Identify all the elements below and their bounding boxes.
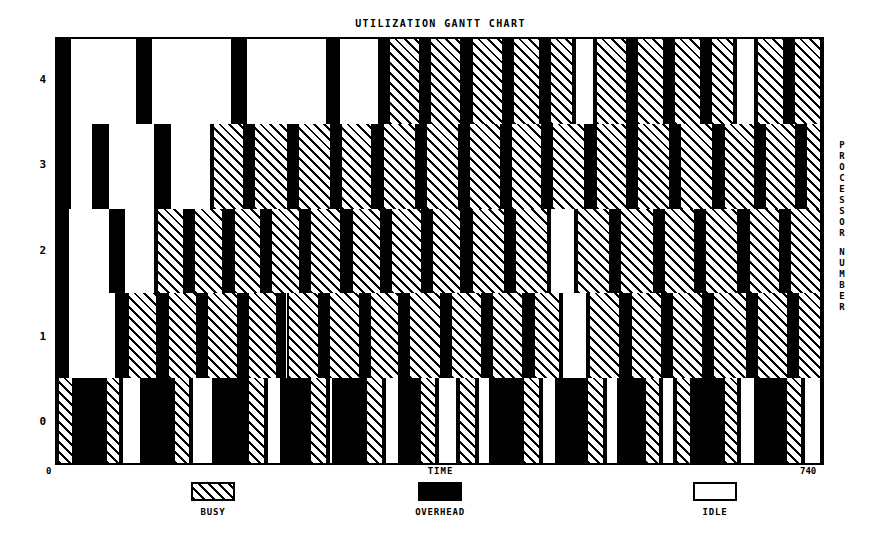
gantt-segment-idle xyxy=(266,378,283,463)
y-axis-label-char: R xyxy=(833,302,851,313)
gantt-segment-overhead xyxy=(663,293,671,378)
gantt-segment-overhead xyxy=(524,293,532,378)
y-axis-label-char: P xyxy=(833,140,851,151)
gantt-segment-idle xyxy=(661,378,675,463)
gantt-segment-busy xyxy=(212,124,245,209)
gantt-segment-busy xyxy=(471,209,506,294)
gantt-segment-overhead xyxy=(328,39,338,124)
gantt-segment-busy xyxy=(723,378,740,463)
legend-item-idle: IDLE xyxy=(680,482,750,517)
gantt-segment-idle xyxy=(169,124,212,209)
gantt-segment-idle xyxy=(67,293,117,378)
gantt-segment-overhead xyxy=(756,124,764,209)
gantt-segment-overhead xyxy=(111,209,123,294)
gantt-segment-busy xyxy=(382,124,417,209)
gantt-segment-overhead xyxy=(400,378,419,463)
gantt-segment-idle xyxy=(338,39,379,124)
y-axis-label-char: S xyxy=(833,195,851,206)
gantt-segment-overhead xyxy=(421,39,429,124)
gantt-segment-busy xyxy=(586,378,605,463)
gantt-segment-overhead xyxy=(781,209,789,294)
gantt-segment-busy xyxy=(247,378,266,463)
gantt-segment-overhead xyxy=(789,293,797,378)
y-axis-label-char: O xyxy=(833,162,851,173)
gantt-segment-busy xyxy=(471,39,504,124)
gantt-segment-idle xyxy=(67,209,110,294)
gantt-segment-busy xyxy=(351,209,382,294)
gantt-segment-overhead xyxy=(442,293,450,378)
y-axis-tick-0: 0 xyxy=(20,415,46,428)
gantt-segment-busy xyxy=(450,293,483,378)
y-axis-label: PROCESSORNUMBER xyxy=(833,140,851,313)
gantt-segment-idle xyxy=(561,293,588,378)
legend-label-busy: BUSY xyxy=(178,507,248,517)
gantt-segment-idle xyxy=(574,39,595,124)
gantt-segment-busy xyxy=(429,39,462,124)
gantt-segment-busy xyxy=(793,39,822,124)
gantt-segment-overhead xyxy=(158,293,166,378)
gantt-segment-overhead xyxy=(373,124,381,209)
gantt-segment-overhead xyxy=(692,378,723,463)
gantt-segment-overhead xyxy=(74,378,105,463)
gantt-rows-container xyxy=(57,39,822,463)
gantt-segment-busy xyxy=(390,209,423,294)
gantt-segment-idle xyxy=(605,378,619,463)
plot-area xyxy=(55,37,824,465)
gantt-segment-idle xyxy=(191,378,214,463)
gantt-segment-overhead xyxy=(94,124,106,209)
gantt-segment-busy xyxy=(425,124,460,209)
gantt-segment-overhead xyxy=(704,293,712,378)
gantt-segment-busy xyxy=(127,293,158,378)
gantt-segment-overhead xyxy=(491,378,522,463)
gantt-segment-overhead xyxy=(628,124,636,209)
gantt-segment-overhead xyxy=(239,293,247,378)
gantt-segment-busy xyxy=(388,39,421,124)
gantt-segment-busy xyxy=(328,293,361,378)
gantt-segment-busy xyxy=(167,293,198,378)
gantt-segment-overhead xyxy=(483,293,491,378)
gantt-segment-busy xyxy=(636,124,671,209)
gantt-segment-idle xyxy=(69,124,94,209)
gantt-segment-busy xyxy=(510,124,543,209)
gantt-segment-overhead xyxy=(301,209,309,294)
gantt-segment-busy xyxy=(340,124,373,209)
y-axis-tick-4: 4 xyxy=(20,73,46,86)
y-axis-label-char: N xyxy=(833,247,851,258)
gantt-segment-busy xyxy=(595,39,628,124)
gantt-segment-overhead xyxy=(714,124,722,209)
gantt-segment-overhead xyxy=(543,124,551,209)
gantt-segment-overhead xyxy=(142,378,173,463)
gantt-segment-overhead xyxy=(400,293,408,378)
gantt-segment-overhead xyxy=(586,124,594,209)
gantt-segment-idle xyxy=(121,378,142,463)
legend-swatch-busy-icon xyxy=(191,482,235,501)
gantt-segment-busy xyxy=(712,293,747,378)
gantt-segment-overhead xyxy=(233,39,245,124)
gantt-segment-busy xyxy=(491,293,524,378)
gantt-segment-idle xyxy=(549,209,576,294)
gantt-segment-idle xyxy=(735,39,756,124)
gantt-segment-overhead xyxy=(214,378,247,463)
gantt-segment-overhead xyxy=(332,124,340,209)
gantt-segment-busy xyxy=(756,293,789,378)
gantt-segment-overhead xyxy=(628,39,636,124)
gantt-segment-overhead xyxy=(785,39,793,124)
gantt-segment-busy xyxy=(671,293,704,378)
gantt-chart-figure: UTILIZATION GANTT CHART 43210 0 740 TIME… xyxy=(0,0,881,536)
gantt-segment-busy xyxy=(369,293,400,378)
gantt-segment-busy xyxy=(756,39,785,124)
y-axis-tick-1: 1 xyxy=(20,330,46,343)
gantt-segment-idle xyxy=(477,378,491,463)
gantt-segment-overhead xyxy=(417,124,425,209)
gantt-segment-overhead xyxy=(739,209,747,294)
gantt-segment-busy xyxy=(309,209,342,294)
gantt-segment-busy xyxy=(57,378,74,463)
gantt-segment-overhead xyxy=(57,124,69,209)
gantt-row-processor-0 xyxy=(57,378,822,463)
gantt-segment-overhead xyxy=(557,378,586,463)
gantt-segment-overhead xyxy=(361,293,369,378)
gantt-segment-busy xyxy=(588,293,621,378)
gantt-segment-busy xyxy=(673,39,702,124)
gantt-segment-busy xyxy=(419,378,438,463)
gantt-segment-busy xyxy=(619,209,654,294)
